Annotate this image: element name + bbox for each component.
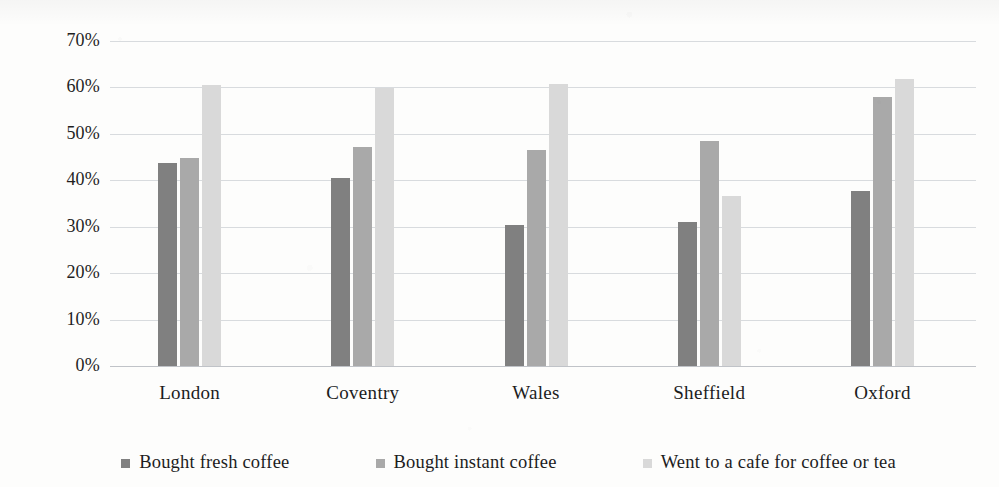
square-marker-icon — [376, 459, 385, 468]
bar[interactable] — [180, 158, 199, 366]
square-marker-icon — [121, 459, 130, 468]
gridline — [110, 366, 976, 367]
legend-item[interactable]: Bought fresh coffee — [121, 452, 289, 472]
bar-group — [505, 41, 568, 366]
y-axis-tick-label: 70% — [28, 31, 100, 49]
bar[interactable] — [527, 150, 546, 366]
bar[interactable] — [158, 163, 177, 366]
scan-shadow-band — [0, 0, 999, 26]
y-axis-tick-label: 40% — [28, 170, 100, 188]
legend-item-label: Bought instant coffee — [394, 452, 557, 472]
y-axis-tick-label: 10% — [28, 310, 100, 328]
plot-area — [110, 41, 976, 366]
bar[interactable] — [353, 147, 372, 366]
y-axis: 0%10%20%30%40%50%60%70% — [22, 41, 100, 366]
bar-group — [158, 41, 221, 366]
bar[interactable] — [375, 88, 394, 366]
bar-group — [331, 41, 394, 366]
chart-legend: Bought fresh coffeeBought instant coffee… — [0, 452, 999, 472]
bar[interactable] — [722, 196, 741, 366]
bar[interactable] — [851, 191, 870, 367]
bar[interactable] — [700, 141, 719, 366]
x-axis-tick-label: Oxford — [792, 382, 972, 404]
x-axis-tick-label: Wales — [446, 382, 626, 404]
bar-group — [678, 41, 741, 366]
legend-item[interactable]: Went to a cafe for coffee or tea — [643, 452, 896, 472]
bar[interactable] — [331, 178, 350, 367]
legend-item-label: Went to a cafe for coffee or tea — [661, 452, 896, 472]
y-axis-tick-label: 0% — [28, 356, 100, 374]
legend-item-label: Bought fresh coffee — [139, 452, 289, 472]
bar[interactable] — [505, 225, 524, 366]
bar[interactable] — [549, 84, 568, 366]
y-axis-tick-label: 60% — [28, 77, 100, 95]
x-axis-tick-label: Coventry — [273, 382, 453, 404]
chart-page: 0%10%20%30%40%50%60%70% LondonCoventryWa… — [0, 0, 999, 487]
bar[interactable] — [202, 85, 221, 366]
y-axis-tick-label: 30% — [28, 217, 100, 235]
y-axis-tick-label: 50% — [28, 124, 100, 142]
square-marker-icon — [643, 459, 652, 468]
y-axis-tick-label: 20% — [28, 263, 100, 281]
bar[interactable] — [895, 79, 914, 366]
x-axis-tick-label: London — [100, 382, 280, 404]
bar-group — [851, 41, 914, 366]
x-axis-tick-label: Sheffield — [619, 382, 799, 404]
bar[interactable] — [873, 97, 892, 366]
legend-item[interactable]: Bought instant coffee — [376, 452, 557, 472]
bar[interactable] — [678, 222, 697, 366]
